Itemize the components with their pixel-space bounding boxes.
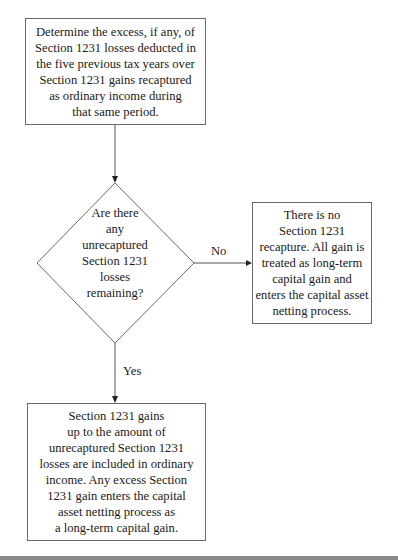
yes-box-line: unrecaptured Section 1231 (40, 440, 194, 456)
no-box-line: netting process. (256, 303, 369, 319)
start-box-line: the five previous tax years over (35, 56, 196, 72)
decision-line: any (65, 221, 165, 237)
start-box-line: Determine the excess, if any, of (35, 24, 196, 40)
start-box-line: Section 1231 losses deducted in (35, 40, 196, 56)
yes-branch-label: Yes (123, 363, 141, 379)
decision-line: Section 1231 (65, 253, 165, 269)
no-box-line: recapture. All gain is (256, 239, 369, 255)
yes-outcome-box: Section 1231 gains up to the amount of u… (27, 403, 206, 541)
no-box-line: Section 1231 (256, 223, 369, 239)
decision-line: remaining? (65, 285, 165, 301)
start-box-line: that same period. (35, 104, 196, 120)
yes-box-line: 1231 gain enters the capital (40, 488, 194, 504)
decision-line: unrecaptured (65, 237, 165, 253)
no-outcome-box: There is no Section 1231 recapture. All … (252, 202, 372, 324)
no-branch-label: No (211, 243, 226, 259)
start-box-line: Section 1231 gains recaptured (35, 72, 196, 88)
yes-box-line: up to the amount of (40, 424, 194, 440)
arrowhead-down-icon (112, 396, 118, 403)
no-box-line: enters the capital asset (256, 287, 369, 303)
page-edge-divider (0, 556, 398, 560)
no-box-line: There is no (256, 207, 369, 223)
decision-question: Are there any unrecaptured Section 1231 … (65, 205, 165, 301)
yes-box-line: a long-term capital gain. (40, 520, 194, 536)
start-process-box: Determine the excess, if any, of Section… (25, 18, 206, 125)
decision-line: Are there (65, 205, 165, 221)
arrowhead-down-icon (112, 176, 118, 183)
no-box-line: treated as long-term (256, 255, 369, 271)
yes-box-line: Section 1231 gains (40, 408, 194, 424)
yes-box-line: losses are included in ordinary (40, 456, 194, 472)
yes-box-line: income. Any excess Section (40, 472, 194, 488)
decision-line: losses (65, 269, 165, 285)
no-box-line: capital gain and (256, 271, 369, 287)
start-box-line: as ordinary income during (35, 88, 196, 104)
yes-box-line: asset netting process as (40, 504, 194, 520)
